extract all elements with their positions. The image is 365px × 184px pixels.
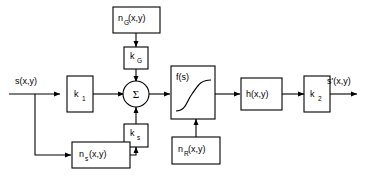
block-summing-junction[interactable]: Σ [123, 81, 149, 107]
block-kG[interactable]: k G [124, 47, 148, 69]
block-nG-label: n [118, 13, 123, 23]
sigma-symbol: Σ [133, 88, 139, 100]
diagram-canvas: k 1 Σ f(s) h(x,y) k 2 n G [0, 0, 365, 184]
output-signal-label: s'(x,y) [327, 76, 351, 86]
block-k1-subscript: 1 [82, 95, 86, 102]
block-ns-label: n [79, 149, 84, 159]
block-ks-label: k [130, 128, 135, 138]
block-nG[interactable]: n G (x,y) [113, 7, 160, 33]
wire-ns-to-ks [130, 147, 136, 155]
block-fs[interactable]: f(s) [171, 66, 215, 119]
block-nG-args: (x,y) [128, 13, 146, 23]
block-ns-args: (x,y) [89, 149, 107, 159]
wire-input-branch-to-ns [35, 94, 71, 155]
input-signal-label: s(x,y) [15, 76, 37, 86]
block-k1-label: k [74, 89, 79, 99]
block-kG-label: k [130, 51, 135, 61]
block-k2-label: k [310, 89, 315, 99]
block-fs-label: f(s) [176, 72, 189, 82]
block-k2-subscript: 2 [318, 95, 322, 102]
block-nR[interactable]: n R (x,y) [172, 137, 220, 164]
block-diagram: k 1 Σ f(s) h(x,y) k 2 n G [0, 0, 365, 184]
block-nR-label: n [178, 144, 183, 154]
block-k1[interactable]: k 1 [67, 76, 93, 112]
block-ns[interactable]: n s (x,y) [72, 142, 130, 168]
block-h-label: h(x,y) [246, 89, 269, 99]
block-nR-args: (x,y) [188, 144, 206, 154]
block-h[interactable]: h(x,y) [241, 78, 282, 110]
block-kG-subscript: G [137, 57, 142, 64]
